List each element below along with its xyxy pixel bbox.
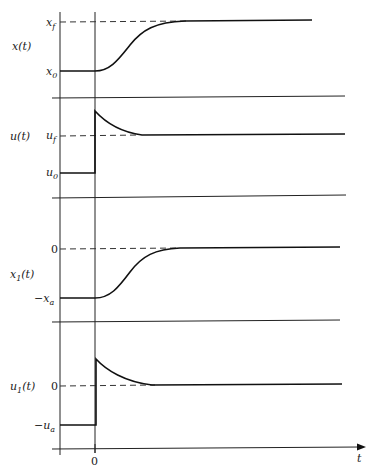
t-zero-label: 0 bbox=[91, 455, 98, 468]
u1-zero-reference-line bbox=[60, 385, 155, 386]
uf-label: uf bbox=[46, 129, 58, 144]
u1-zero-label: 0 bbox=[51, 380, 58, 393]
x1-response-curve bbox=[60, 247, 340, 298]
t-axis-label: t bbox=[357, 452, 362, 465]
u-ylabel: u(t) bbox=[10, 130, 30, 143]
x1-ylabel: x1(t) bbox=[10, 268, 34, 283]
time-axis-arrow-icon bbox=[357, 444, 366, 451]
neg-xa-label: −u−xa bbox=[34, 292, 54, 307]
neg-ua-label: −ua bbox=[34, 419, 55, 434]
response-diagram: x(t) xf x0 u(t) uf u0 x1(t) 0 −u−xa u1(t… bbox=[0, 0, 374, 471]
panel-separator bbox=[52, 96, 345, 98]
panel-x: x(t) xf x0 bbox=[12, 16, 312, 80]
x-response-curve bbox=[60, 20, 312, 71]
u-response-curve bbox=[60, 111, 345, 173]
panel-separator bbox=[52, 195, 346, 198]
u1-ylabel: u1(t) bbox=[10, 380, 35, 395]
u1-response-curve bbox=[60, 359, 342, 425]
x0-label: x0 bbox=[46, 65, 57, 80]
time-axis bbox=[52, 447, 360, 449]
u0-label: u0 bbox=[46, 166, 58, 181]
uf-reference-line bbox=[60, 135, 140, 136]
xf-label: xf bbox=[46, 16, 57, 31]
x1-zero-reference-line bbox=[60, 248, 180, 249]
x1-zero-label: 0 bbox=[51, 243, 58, 256]
x-ylabel: x(t) bbox=[12, 40, 31, 53]
